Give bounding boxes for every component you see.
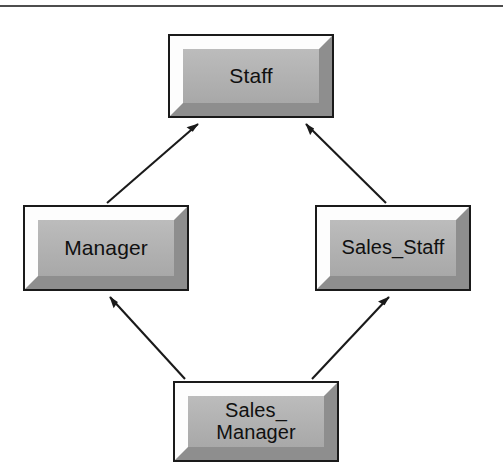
class-node-sales-staff[interactable]: Sales_Staff (315, 205, 471, 291)
class-node-sales-manager[interactable]: Sales_ Manager (173, 381, 339, 462)
class-node-label: Sales_Staff (317, 207, 469, 289)
edge-sales-staff-to-staff (306, 124, 386, 203)
edge-sales-manager-to-manager (110, 297, 185, 379)
class-node-label: Manager (25, 207, 187, 289)
class-node-staff[interactable]: Staff (168, 34, 334, 118)
class-node-label: Sales_ Manager (175, 383, 337, 460)
inheritance-diagram: Staff Manager Sales_Staff Sales_ Manager (0, 0, 503, 475)
class-node-manager[interactable]: Manager (23, 205, 189, 291)
class-node-label: Staff (170, 36, 332, 116)
edge-manager-to-staff (107, 124, 198, 203)
edge-sales-manager-to-sales-staff (312, 297, 389, 379)
